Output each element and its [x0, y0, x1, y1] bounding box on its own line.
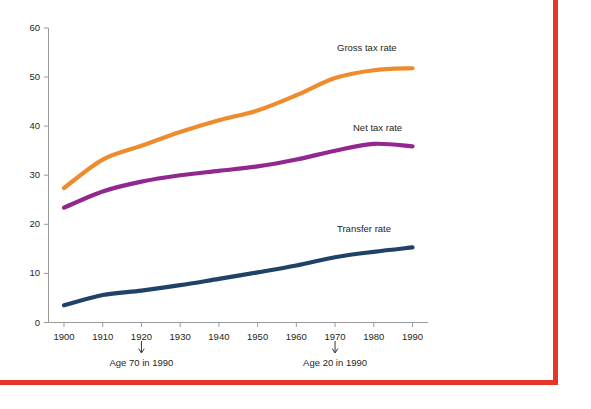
x-tick-label-1920: 1920	[131, 331, 152, 342]
x-axis-tick-labels: 1900191019201930194019501960197019801990	[53, 331, 423, 342]
y-tick-label-20: 20	[29, 218, 40, 229]
y-tick-label-0: 0	[35, 317, 40, 328]
x-tick-label-1980: 1980	[363, 331, 384, 342]
y-tick-label-40: 40	[29, 120, 40, 131]
annotation-age-20: Age 20 in 1990	[303, 341, 367, 368]
x-tick-label-1990: 1990	[402, 331, 423, 342]
x-tick-label-1910: 1910	[92, 331, 113, 342]
y-tick-label-60: 60	[29, 22, 40, 33]
annotation-age-70: Age 70 in 1990	[109, 341, 173, 368]
line-chart-figure: 0 10 20 30 40 50 60 19001910192019301940…	[0, 0, 558, 385]
series-line-transfer-rate	[64, 247, 413, 305]
x-tick-label-1960: 1960	[286, 331, 307, 342]
y-tick-label-50: 50	[29, 71, 40, 82]
x-tick-label-1970: 1970	[324, 331, 345, 342]
series-label-net-tax-rate: Net tax rate	[353, 122, 402, 133]
x-tick-label-1940: 1940	[208, 331, 229, 342]
series-label-gross-tax-rate: Gross tax rate	[337, 42, 397, 53]
x-tick-label-1900: 1900	[53, 331, 74, 342]
annotation-label-age-70: Age 70 in 1990	[109, 357, 173, 368]
y-tick-label-30: 30	[29, 169, 40, 180]
x-tick-label-1930: 1930	[170, 331, 191, 342]
y-axis-ticks	[44, 28, 49, 323]
x-tick-label-1950: 1950	[247, 331, 268, 342]
annotation-label-age-20: Age 20 in 1990	[303, 357, 367, 368]
y-tick-label-10: 10	[29, 267, 40, 278]
series-label-transfer-rate: Transfer rate	[337, 223, 391, 234]
chart-canvas: 0 10 20 30 40 50 60 19001910192019301940…	[0, 0, 558, 385]
x-axis-ticks	[64, 323, 413, 328]
